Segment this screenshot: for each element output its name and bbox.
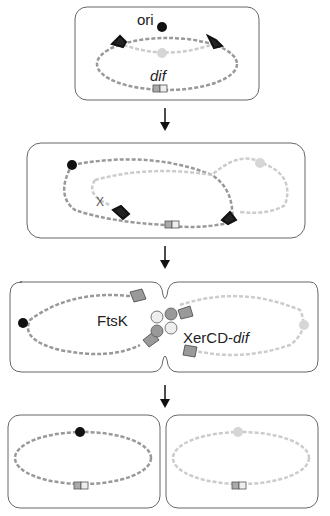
xerc-monomer [165, 322, 177, 334]
cell-panel-4 [8, 415, 160, 508]
xercd-dif-text: dif [233, 329, 249, 346]
crossover-label: X [96, 195, 104, 209]
ori-label: ori [137, 11, 154, 28]
dif-site [165, 221, 172, 228]
ori-light [255, 158, 265, 168]
xerc-monomer [151, 311, 163, 323]
xerd-monomer [165, 308, 177, 320]
ori-light [299, 320, 309, 330]
dif-site [74, 482, 81, 489]
ori-dark [18, 318, 28, 328]
dif-site [153, 85, 160, 92]
dif-site [232, 482, 239, 489]
ftsk-motor [178, 306, 193, 319]
dif-site-light [172, 221, 179, 228]
ori-light [157, 48, 167, 58]
cell-panel-3 [10, 282, 318, 372]
dna-loop-dark [15, 432, 151, 484]
xerd-monomer [151, 325, 163, 337]
ftsk-motor [183, 345, 197, 357]
xercd-text: XerCD- [183, 329, 233, 346]
dif-site-light [81, 482, 88, 489]
replisome-right [222, 212, 236, 224]
dna-loop-light [173, 432, 309, 484]
arrow-2-head [160, 260, 170, 269]
ori-light [233, 427, 243, 437]
xercd-label: XerCD-dif [183, 329, 249, 346]
dna-loop-dark [64, 159, 232, 227]
dif-site-light [239, 482, 246, 489]
arrow-1-head [160, 122, 170, 131]
ftsk-label: FtsK [97, 312, 128, 329]
dna-strand-light [118, 43, 216, 53]
arrow-3-head [160, 399, 170, 408]
replisome-left [112, 36, 126, 47]
replisome-left [113, 206, 129, 219]
dna-loop-light [180, 296, 303, 355]
ori-dark [67, 160, 77, 170]
ori-dark [157, 22, 167, 32]
dif-site-light [160, 85, 167, 92]
cell-panel-5 [166, 415, 318, 508]
dif-label: dif [150, 67, 166, 84]
ori-dark [75, 427, 85, 437]
ftsk-motor [130, 289, 146, 302]
